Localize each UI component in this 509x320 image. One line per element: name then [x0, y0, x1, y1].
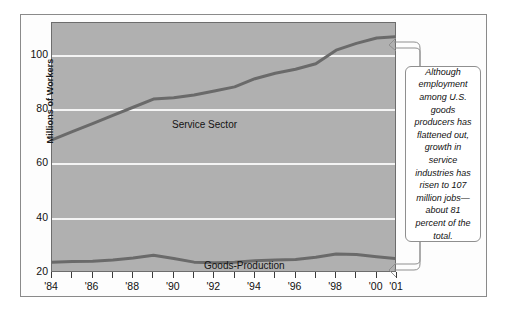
x-tick-1993: [234, 272, 235, 278]
x-tick-label-1994: '94: [247, 280, 261, 292]
x-tick-1989: [152, 272, 153, 278]
x-tick-label-1984: '84: [44, 280, 58, 292]
plot-area: Service Sector Goods-Production Sector: [51, 22, 396, 272]
x-tick-label-1998: '98: [328, 280, 342, 292]
x-tick-1987: [112, 272, 113, 278]
x-tick-1996: [295, 272, 296, 278]
x-tick-label-2000: '00: [369, 280, 383, 292]
x-tick-label-2001: '01: [389, 280, 403, 292]
x-tick-1992: [213, 272, 214, 278]
x-tick-2001: [396, 272, 397, 278]
x-tick-1985: [71, 272, 72, 278]
x-axis-ticks: [51, 272, 396, 280]
y-axis-title: Millions of Workers: [45, 41, 55, 161]
x-tick-1991: [193, 272, 194, 278]
series-lines: [52, 23, 396, 272]
x-tick-label-1990: '90: [166, 280, 180, 292]
x-tick-1994: [254, 272, 255, 278]
x-tick-label-1988: '88: [125, 280, 139, 292]
series-label-goods-production-sector: Goods-Production Sector: [204, 260, 285, 272]
x-tick-1998: [335, 272, 336, 278]
x-tick-1984: [51, 272, 52, 278]
x-tick-2000: [376, 272, 377, 278]
y-tick-label-40: 40: [22, 212, 48, 223]
x-tick-label-1996: '96: [288, 280, 302, 292]
x-tick-1988: [132, 272, 133, 278]
x-tick-1995: [274, 272, 275, 278]
y-axis-ticks: 10080604020: [18, 22, 48, 272]
x-tick-1990: [173, 272, 174, 278]
y-tick-label-20: 20: [22, 266, 48, 277]
x-tick-1999: [355, 272, 356, 278]
x-tick-label-1986: '86: [85, 280, 99, 292]
x-tick-label-1992: '92: [207, 280, 221, 292]
x-tick-1997: [315, 272, 316, 278]
callout-text: Although employment among U.S. goods pro…: [410, 66, 476, 242]
x-axis-tick-labels: '84'86'88'90'92'94'96'98'00'01: [51, 280, 396, 296]
series-label-service-sector: Service Sector: [172, 119, 237, 130]
x-tick-1986: [92, 272, 93, 278]
callout-box: Although employment among U.S. goods pro…: [405, 66, 481, 242]
chart-figure: Service Sector Goods-Production Sector 1…: [0, 0, 509, 320]
